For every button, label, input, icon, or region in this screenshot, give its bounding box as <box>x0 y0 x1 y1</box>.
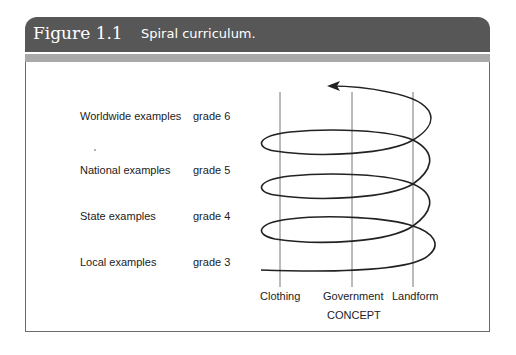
concept-label-government: Government <box>323 290 384 302</box>
axis-title-concept: CONCEPT <box>327 309 381 321</box>
concept-label-clothing: Clothing <box>260 290 300 302</box>
spiral-diagram <box>0 0 516 355</box>
stray-mark <box>94 149 96 151</box>
concept-label-landform: Landform <box>392 290 438 302</box>
spiral-path <box>261 86 435 271</box>
